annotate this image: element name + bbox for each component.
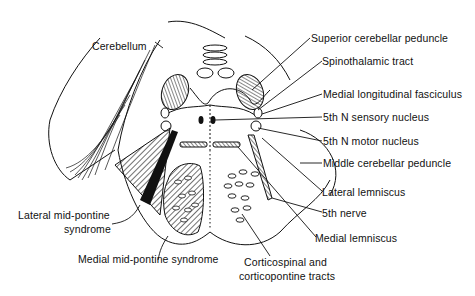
anatomy-drawing (0, 0, 475, 296)
superior-cerebellar-peduncle-right (232, 71, 269, 114)
mlf-right (211, 116, 216, 124)
label-middle-cerebellar-peduncle: Middle cerebellar peduncle (323, 157, 451, 169)
pons-cross-section-diagram: Cerebellum Superior cerebellar peduncle … (0, 0, 475, 296)
label-5th-n-motor-nucleus: 5th N motor nucleus (323, 135, 419, 147)
label-5th-n-sensory-nucleus: 5th N sensory nucleus (323, 111, 429, 123)
label-spinothalamic-tract: Spinothalamic tract (322, 55, 413, 67)
label-superior-cerebellar-peduncle: Superior cerebellar peduncle (311, 32, 448, 44)
label-medial-longitudinal-fasciculus: Medial longitudinal fasciculus (323, 88, 462, 100)
label-corticospinal-line2: corticopontine tracts (232, 270, 342, 282)
label-lateral-syndrome-line1: Lateral mid-pontine (18, 209, 110, 221)
label-medial-lemniscus: Medial lemniscus (315, 232, 397, 244)
label-corticospinal-line1: Corticospinal and (238, 256, 333, 268)
medial-lemniscus-left (180, 142, 207, 147)
medial-lesion (164, 164, 204, 235)
cerebellum-outline (49, 38, 115, 180)
medial-lemniscus-right (213, 142, 240, 147)
label-lateral-syndrome-line2: syndrome (64, 223, 111, 235)
mlf-left (199, 116, 204, 124)
label-medial-syndrome: Medial mid-pontine syndrome (78, 253, 218, 265)
label-cerebellum: Cerebellum (92, 40, 147, 52)
label-5th-nerve: 5th nerve (322, 207, 367, 219)
label-lateral-lemniscus: Lateral lemniscus (322, 186, 405, 198)
